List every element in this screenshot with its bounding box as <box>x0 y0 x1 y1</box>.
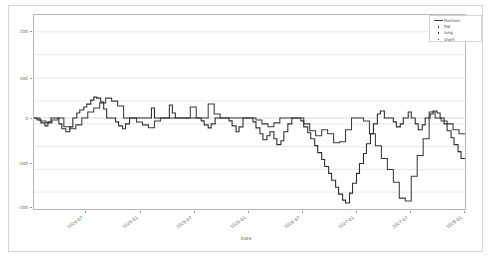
legend-entry-flat: flat <box>433 24 479 30</box>
legend-label: long <box>444 30 453 36</box>
x-axis-title: Date <box>0 236 492 241</box>
y-tick-mark <box>30 207 32 208</box>
y-tick-label: 0 <box>4 116 28 121</box>
legend-entry-long: long <box>433 30 479 36</box>
y-tick-label: -100 <box>4 161 28 166</box>
y-tick-label: -200 <box>4 205 28 210</box>
y-tick-mark <box>30 118 32 119</box>
legend-entry-position: Position <box>433 18 479 24</box>
y-tick-label: 100 <box>4 76 28 81</box>
legend-label: Position <box>444 18 460 24</box>
chart-legend: Position flat long short <box>429 15 482 42</box>
x-tick-mark <box>194 211 195 213</box>
x-tick-mark <box>140 211 141 213</box>
legend-point-icon <box>433 26 444 28</box>
legend-line-icon <box>433 20 444 21</box>
legend-point-icon <box>433 32 444 34</box>
x-tick-mark <box>464 211 465 213</box>
legend-label: flat <box>444 24 451 30</box>
plot-area <box>33 14 466 210</box>
x-tick-mark <box>85 211 86 213</box>
position-series-detail <box>34 15 465 209</box>
legend-point-icon <box>433 39 444 41</box>
x-tick-mark <box>410 211 411 213</box>
y-tick-label: 200 <box>4 29 28 34</box>
y-tick-mark <box>30 163 32 164</box>
chart-figure: 200 100 0 -100 -200 <box>0 0 492 258</box>
x-tick-mark <box>248 211 249 213</box>
x-tick-mark <box>356 211 357 213</box>
legend-label: short <box>444 37 455 43</box>
y-tick-mark <box>30 31 32 32</box>
x-tick-mark <box>302 211 303 213</box>
y-tick-mark <box>30 78 32 79</box>
legend-entry-short: short <box>433 37 479 43</box>
